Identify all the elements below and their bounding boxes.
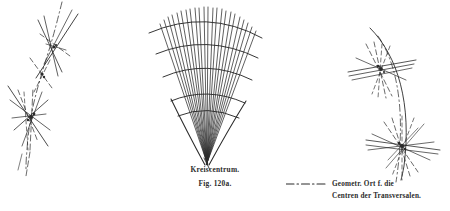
node-point bbox=[55, 44, 57, 46]
transversal bbox=[22, 92, 42, 146]
legend-line-2: Centren der Transversalen. bbox=[332, 192, 450, 200]
transversal bbox=[378, 44, 382, 98]
node-point bbox=[383, 71, 385, 73]
ray bbox=[207, 12, 231, 163]
node-point bbox=[40, 72, 43, 75]
node-point bbox=[27, 119, 29, 121]
right-solid-arc bbox=[370, 28, 406, 180]
transversal bbox=[18, 154, 22, 170]
node-point bbox=[404, 148, 406, 150]
ray bbox=[207, 14, 235, 163]
legend-row: Geometr. Ort f. die bbox=[286, 180, 450, 188]
node-point bbox=[33, 113, 36, 116]
left-locus-figure bbox=[8, 2, 78, 176]
right-locus-figure bbox=[348, 28, 440, 182]
arc bbox=[149, 22, 262, 38]
legend-line-1: Geometr. Ort f. die bbox=[332, 180, 394, 188]
legend-dash-dot-sample-icon bbox=[286, 181, 328, 187]
left-lower-node-cluster bbox=[8, 86, 50, 150]
node-point bbox=[377, 65, 380, 68]
right-locus-curve bbox=[378, 36, 400, 182]
figure-legend: Geometr. Ort f. die Centren der Transver… bbox=[286, 180, 450, 200]
ray bbox=[207, 23, 248, 163]
transversal bbox=[34, 60, 50, 92]
figure-number: Fig. 120a. bbox=[155, 180, 275, 188]
transversal bbox=[10, 100, 50, 130]
node-point bbox=[43, 76, 45, 78]
node-point bbox=[379, 67, 383, 71]
left-locus-curve bbox=[26, 2, 62, 170]
transversal bbox=[36, 14, 78, 78]
node-point bbox=[53, 46, 56, 49]
transversal bbox=[38, 20, 62, 72]
node-point bbox=[400, 144, 404, 148]
transversal bbox=[388, 128, 418, 160]
arc bbox=[171, 94, 245, 103]
ray-pencil bbox=[160, 7, 256, 163]
left-middle-node-cluster bbox=[30, 58, 52, 92]
ray bbox=[207, 20, 244, 163]
figure-page: Kreiscentrum. Fig. 120a. Geometr. Ort f.… bbox=[0, 0, 450, 211]
caption-title: Kreiscentrum. bbox=[155, 166, 275, 174]
pencil-of-transversals-figure bbox=[149, 7, 262, 170]
node-point bbox=[29, 115, 33, 119]
figure-caption: Kreiscentrum. Fig. 120a. bbox=[155, 166, 275, 188]
node-point bbox=[398, 142, 401, 145]
right-upper-node-cluster bbox=[348, 42, 416, 98]
transversal bbox=[26, 152, 30, 176]
